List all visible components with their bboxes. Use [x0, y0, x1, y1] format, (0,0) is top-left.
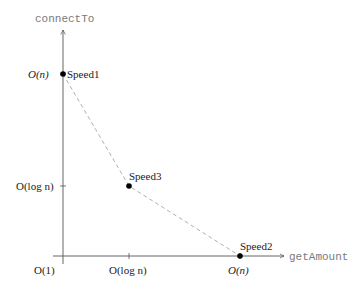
label-speed2: Speed2	[240, 240, 272, 252]
y-axis-label: connectTo	[35, 13, 94, 25]
point-speed2	[237, 253, 243, 259]
y-tick-label-n: O(n)	[28, 68, 49, 81]
tradeoff-curve	[63, 74, 240, 256]
x-axis-label: getAmount	[289, 251, 348, 263]
point-speed3	[126, 183, 132, 189]
label-speed3: Speed3	[129, 170, 162, 182]
point-speed1	[60, 71, 66, 77]
origin-label: O(1)	[34, 264, 55, 277]
x-tick-label-logn: O(log n)	[109, 264, 147, 277]
y-tick-label-logn: O(log n)	[16, 180, 54, 193]
x-tick-label-n: O(n)	[228, 264, 249, 277]
label-speed1: Speed1	[67, 68, 99, 80]
complexity-diagram: Speed1 Speed3 Speed2 connectTo getAmount…	[0, 0, 358, 290]
